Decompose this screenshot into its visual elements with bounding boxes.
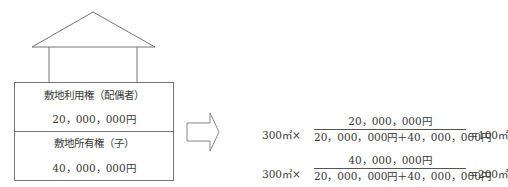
upper-section-value: 20，000，000円 <box>14 112 174 126</box>
formula-result: ＝200㎡ <box>468 167 508 181</box>
fraction: 20，000，000円 20，000，000円＋40，000，000円 <box>314 115 466 144</box>
formula-result: ＝100㎡ <box>468 128 508 142</box>
fraction-bar <box>314 168 466 169</box>
fraction-bar <box>314 129 466 130</box>
lower-section-value: 40，000，000円 <box>14 161 174 175</box>
house-roof <box>32 12 155 47</box>
fraction-denominator: 20，000，000円＋40，000，000円 <box>314 131 466 144</box>
upper-section-label: 敷地利用権（配偶者） <box>14 88 174 102</box>
lower-section-label: 敷地所有権（子） <box>14 136 174 150</box>
right-arrow-icon <box>187 113 219 151</box>
formula-area: 300㎡ <box>262 168 292 180</box>
times-sign: × <box>292 168 301 180</box>
times-sign: × <box>292 129 301 141</box>
fraction-numerator: 40，000，000円 <box>314 154 466 167</box>
fraction-denominator: 20，000，000円＋40，000，000円 <box>314 170 466 183</box>
formula-area: 300㎡ <box>262 129 292 141</box>
fraction: 40，000，000円 20，000，000円＋40，000，000円 <box>314 154 466 183</box>
fraction-numerator: 20，000，000円 <box>314 115 466 128</box>
